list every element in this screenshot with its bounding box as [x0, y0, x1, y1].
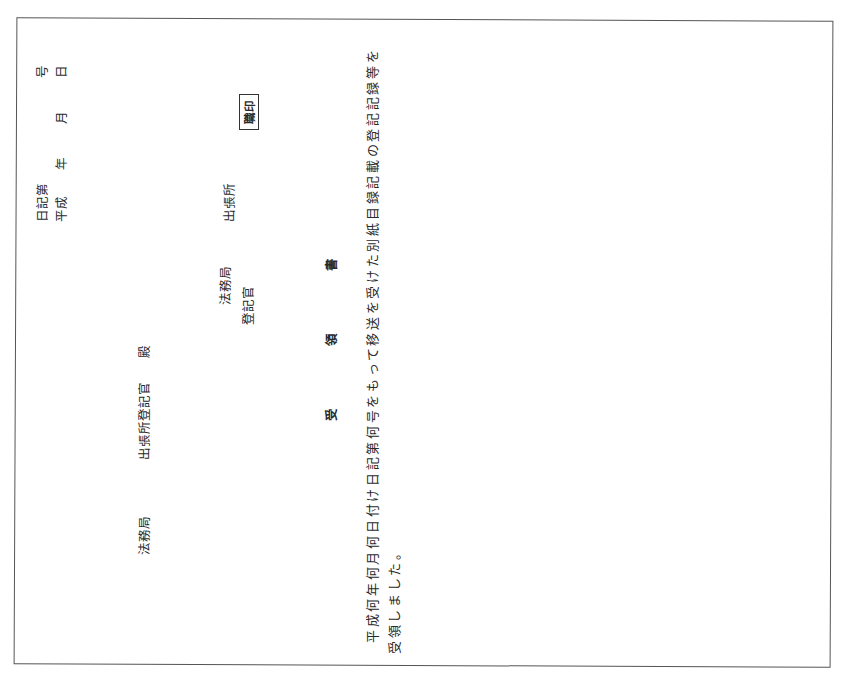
date-month-unit: 月	[56, 111, 69, 124]
receipt-document-page: 日記第 号 平成 年 月 日 法務局 出張所登記官 殿 法務局 出張所 登記官 …	[15, 20, 834, 667]
official-seal-label: 職印	[241, 100, 257, 124]
title-char-1: 受	[326, 408, 339, 421]
sender-bureau: 法務局	[220, 266, 233, 305]
sender-officer: 登記官	[243, 286, 256, 325]
addressee-bureau: 法務局	[139, 516, 152, 555]
date-day-unit: 日	[56, 65, 69, 78]
title-char-3: 書	[326, 258, 339, 271]
addressee-office-officer: 出張所登記官	[139, 382, 152, 460]
body-text-line-1: 平成何年何月何日付け日記第何号をもって移送を受けた別紙目録記載の登記記録等を	[366, 47, 379, 643]
title-char-2: 領	[326, 333, 339, 346]
date-era: 平成	[56, 196, 69, 222]
date-year-unit: 年	[56, 157, 69, 170]
addressee-honorific: 殿	[139, 345, 152, 358]
official-seal-box: 職印	[239, 94, 259, 130]
sender-branch: 出張所	[224, 183, 237, 222]
body-text-line-2: 受領しました。	[388, 544, 401, 654]
register-number-prefix: 日記第	[37, 183, 50, 222]
register-number-suffix: 号	[37, 65, 50, 78]
